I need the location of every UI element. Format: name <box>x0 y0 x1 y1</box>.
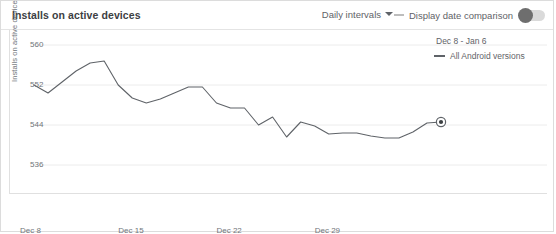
date-comparison-control: Display date comparison <box>394 6 545 24</box>
chart-card: Installs on active devices Daily interva… <box>0 0 554 232</box>
series-line-all-android-versions <box>34 61 441 138</box>
y-tick-label: 536 <box>30 160 43 169</box>
date-comparison-toggle[interactable] <box>519 10 545 21</box>
installs-line-chart <box>1 30 555 232</box>
x-tick-label: Dec 8 <box>20 226 41 234</box>
interval-dropdown[interactable]: Daily intervals <box>322 9 393 20</box>
y-tick-label: 560 <box>30 40 43 49</box>
toggle-knob <box>518 8 533 23</box>
x-tick-label: Dec 22 <box>216 226 241 234</box>
x-tick-label: Dec 29 <box>315 226 340 234</box>
chart-plot-area: Installs on active devices 536544552560 … <box>1 30 555 232</box>
card-header: Installs on active devices Daily interva… <box>1 1 553 30</box>
comparison-label: Display date comparison <box>409 10 513 21</box>
comparison-line-icon <box>394 14 404 16</box>
page-title: Installs on active devices <box>12 9 141 21</box>
chevron-down-icon <box>385 12 393 16</box>
interval-dropdown-label: Daily intervals <box>322 9 381 20</box>
y-tick-label: 544 <box>30 120 43 129</box>
x-tick-label: Dec 15 <box>118 226 143 234</box>
y-tick-label: 552 <box>30 80 43 89</box>
chart-gridlines <box>9 30 547 194</box>
series-endpoint-marker[interactable] <box>436 117 445 126</box>
